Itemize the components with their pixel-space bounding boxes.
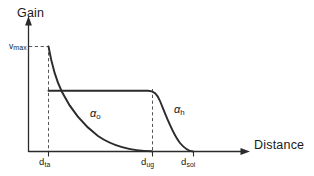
x-axis-ticks: [49, 152, 194, 157]
curve-label-alpha-o: αo: [90, 108, 101, 119]
right-arrow-icon: [241, 148, 251, 155]
tick-sub-d-ug: ug: [146, 161, 154, 168]
vmax-subscript: max: [13, 44, 26, 51]
tick-label-d-ta: dta: [39, 157, 50, 167]
y-axis: [25, 16, 32, 152]
x-axis-label: Distance: [254, 139, 304, 152]
x-axis: [29, 148, 251, 155]
curve-alpha-o: [49, 47, 153, 152]
alpha-h-subscript: h: [180, 108, 184, 117]
tick-sub-d-ta: ta: [44, 161, 50, 168]
tick-label-d-ug: dug: [141, 157, 154, 167]
tick-label-d-soi: dsoi: [181, 157, 195, 167]
figure-canvas: Gain Distance vmax dta dug dsoi αo αh: [0, 0, 314, 176]
curve-alpha-h: [49, 91, 194, 152]
y-axis-label: Gain: [17, 7, 44, 20]
vmax-label: vmax: [9, 42, 27, 51]
curve-label-alpha-h: αh: [174, 104, 185, 115]
alpha-o-subscript: o: [96, 112, 100, 121]
tick-sub-d-soi: soi: [186, 161, 195, 168]
